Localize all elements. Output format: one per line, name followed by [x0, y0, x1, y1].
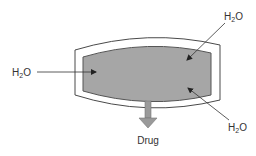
drug-label: Drug [137, 135, 159, 146]
water-label-top-right: H2O [224, 11, 243, 23]
drug-core [83, 46, 211, 101]
water-label-left: H2O [12, 67, 31, 79]
water-label-bottom-right: H2O [228, 122, 247, 134]
osmotic-drug-release-diagram: H2O H2O H2O Drug [0, 0, 256, 156]
